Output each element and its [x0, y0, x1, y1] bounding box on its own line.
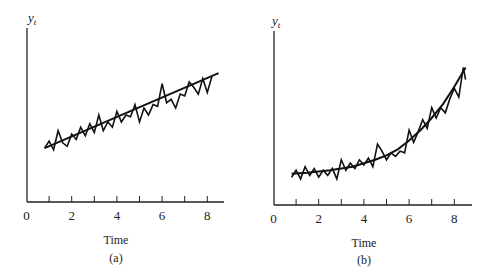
x-tick-label: 8 [451, 211, 458, 226]
x-tick-label: 4 [361, 211, 368, 226]
x-tick-label: 2 [315, 211, 322, 226]
figure: 02468 yt Time (a) 02468 yt Time (b) [0, 0, 491, 280]
panel-b: 02468 yt Time (b) [270, 13, 472, 267]
x-tick-labels: 02468 [270, 211, 457, 226]
x-tick-label: 2 [68, 208, 75, 223]
panel-label: (a) [109, 251, 122, 265]
x-tick-label: 6 [406, 211, 413, 226]
panel-a: 02468 yt Time (a) [23, 10, 224, 265]
observed-series-line [292, 68, 466, 179]
x-ticks [49, 196, 207, 202]
y-axis-label: yt [26, 10, 37, 27]
x-tick-label: 8 [204, 208, 211, 223]
x-tick-label: 0 [270, 211, 277, 226]
x-axis-label: Time [104, 233, 129, 247]
trend-curve [292, 68, 466, 174]
trend-line [45, 73, 219, 148]
panel-label: (b) [357, 253, 371, 267]
x-tick-label: 4 [114, 208, 121, 223]
x-axis-label: Time [352, 236, 377, 250]
x-tick-label: 0 [23, 208, 30, 223]
x-ticks [296, 199, 454, 205]
y-axis-label: yt [270, 13, 281, 30]
x-tick-label: 6 [159, 208, 166, 223]
x-tick-labels: 02468 [23, 208, 210, 223]
